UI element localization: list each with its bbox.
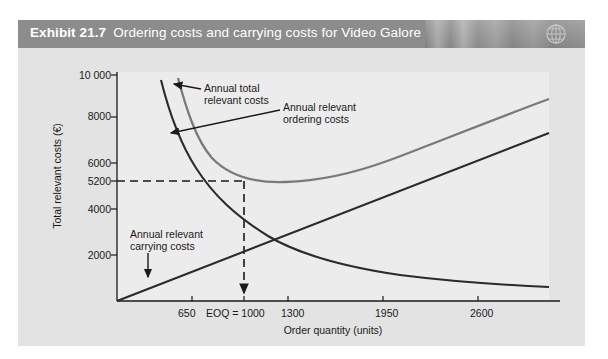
y-ticks — [111, 75, 117, 255]
series-ordering-costs-curve — [161, 80, 549, 287]
series-carrying-costs-line — [117, 133, 549, 301]
leader-arrow-ordering-costs — [171, 110, 280, 133]
chart-canvas — [0, 0, 608, 359]
exhibit-figure: Exhibit 21.7Ordering costs and carrying … — [0, 0, 608, 359]
leader-arrow-total-costs — [174, 84, 201, 89]
x-ticks — [192, 296, 478, 301]
series-total-relevant-costs-curve — [178, 78, 549, 182]
